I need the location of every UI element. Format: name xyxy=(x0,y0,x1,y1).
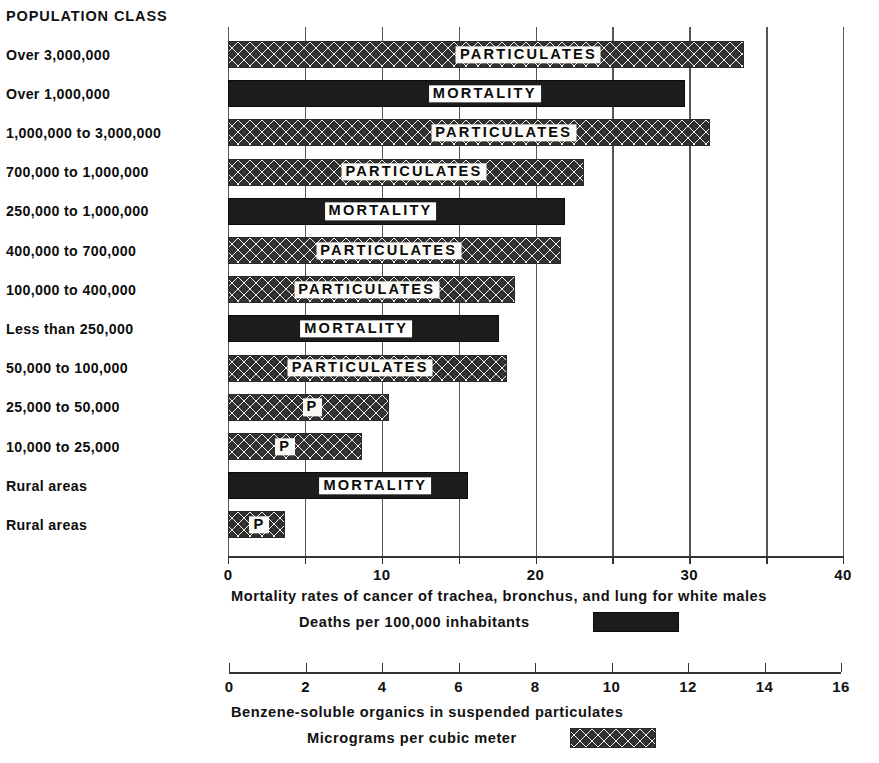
axis-tick xyxy=(843,556,844,564)
bar-label: PARTICULATES xyxy=(456,46,601,63)
axis-tick xyxy=(382,556,383,564)
axis-tick-label: 16 xyxy=(832,678,850,695)
bar-label: PARTICULATES xyxy=(294,281,439,298)
gridline xyxy=(843,27,844,556)
bar-label: P xyxy=(303,399,323,416)
category-label: Over 3,000,000 xyxy=(6,47,110,63)
bar-label: PARTICULATES xyxy=(288,359,433,376)
axis-tick xyxy=(535,663,536,672)
axis-tick-label: 40 xyxy=(834,566,852,583)
bar-mortality: MORTALITY xyxy=(228,80,685,107)
bar-label: PARTICULATES xyxy=(316,242,461,259)
category-label: 1,000,000 to 3,000,000 xyxy=(6,125,161,141)
particulates-axis-caption: Benzene-soluble organics in suspended pa… xyxy=(231,704,623,720)
bar-particulates: PARTICULATES xyxy=(228,159,584,186)
axis-tick xyxy=(841,663,842,672)
axis-tick xyxy=(689,556,690,564)
bar-label: MORTALITY xyxy=(429,85,541,102)
axis-tick-label: 20 xyxy=(527,566,545,583)
bar-particulates: PARTICULATES xyxy=(228,41,744,68)
category-label: Over 1,000,000 xyxy=(6,86,110,102)
bar-mortality: MORTALITY xyxy=(228,315,499,342)
axis-tick-label: 6 xyxy=(454,678,463,695)
axis-tick xyxy=(612,556,613,564)
mortality-legend-label: Deaths per 100,000 inhabitants xyxy=(299,614,530,630)
axis-tick xyxy=(765,663,766,672)
axis-tick xyxy=(382,663,383,672)
bar-label: P xyxy=(275,438,295,455)
category-label: Rural areas xyxy=(6,478,87,494)
axis-tick xyxy=(305,556,306,564)
population-class-header: POPULATION CLASS xyxy=(6,8,168,24)
bar-label: MORTALITY xyxy=(325,203,437,220)
particulates-axis-line xyxy=(229,672,841,674)
mortality-axis-caption: Mortality rates of cancer of trachea, br… xyxy=(231,588,767,604)
axis-tick xyxy=(612,663,613,672)
particulates-legend-label: Micrograms per cubic meter xyxy=(307,730,517,746)
axis-tick xyxy=(766,556,767,564)
axis-tick-label: 4 xyxy=(378,678,387,695)
axis-tick xyxy=(459,556,460,564)
axis-tick xyxy=(536,556,537,564)
bar-particulates: P xyxy=(228,394,389,421)
category-label: 700,000 to 1,000,000 xyxy=(6,164,149,180)
axis-tick-label: 8 xyxy=(531,678,540,695)
category-label: 25,000 to 50,000 xyxy=(6,399,120,415)
bar-particulates: PARTICULATES xyxy=(228,355,507,382)
bar-label: PARTICULATES xyxy=(431,124,576,141)
axis-tick-label: 2 xyxy=(301,678,310,695)
category-label: 100,000 to 400,000 xyxy=(6,282,136,298)
bar-label: P xyxy=(249,516,269,533)
category-label: 10,000 to 25,000 xyxy=(6,439,120,455)
axis-tick xyxy=(688,663,689,672)
bar-label: MORTALITY xyxy=(300,320,412,337)
gridline xyxy=(766,27,767,556)
bar-particulates: P xyxy=(228,511,285,538)
axis-tick xyxy=(228,556,229,564)
axis-tick xyxy=(306,663,307,672)
bar-label: MORTALITY xyxy=(319,477,431,494)
bar-particulates: P xyxy=(228,433,362,460)
bar-mortality: MORTALITY xyxy=(228,472,468,499)
category-label: 400,000 to 700,000 xyxy=(6,243,136,259)
chart-plot-area: PARTICULATESMORTALITYPARTICULATESPARTICU… xyxy=(228,27,843,556)
axis-tick-label: 30 xyxy=(681,566,699,583)
axis-tick-label: 12 xyxy=(679,678,697,695)
category-label: Rural areas xyxy=(6,517,87,533)
bar-particulates: PARTICULATES xyxy=(228,119,710,146)
cut-off-footer-text xyxy=(0,752,879,763)
bar-particulates: PARTICULATES xyxy=(228,237,561,264)
axis-tick-label: 10 xyxy=(603,678,621,695)
axis-tick-label: 0 xyxy=(224,566,233,583)
axis-tick-label: 14 xyxy=(756,678,774,695)
category-label: 250,000 to 1,000,000 xyxy=(6,203,149,219)
gridline xyxy=(689,27,690,556)
axis-tick-label: 0 xyxy=(225,678,234,695)
bar-label: PARTICULATES xyxy=(342,163,487,180)
axis-tick xyxy=(229,663,230,672)
bar-mortality: MORTALITY xyxy=(228,198,565,225)
axis-tick-label: 10 xyxy=(373,566,391,583)
axis-tick xyxy=(459,663,460,672)
particulates-legend-swatch xyxy=(570,728,656,748)
category-label: Less than 250,000 xyxy=(6,321,133,337)
bar-particulates: PARTICULATES xyxy=(228,276,515,303)
category-label: 50,000 to 100,000 xyxy=(6,360,128,376)
mortality-legend-swatch xyxy=(593,612,679,632)
